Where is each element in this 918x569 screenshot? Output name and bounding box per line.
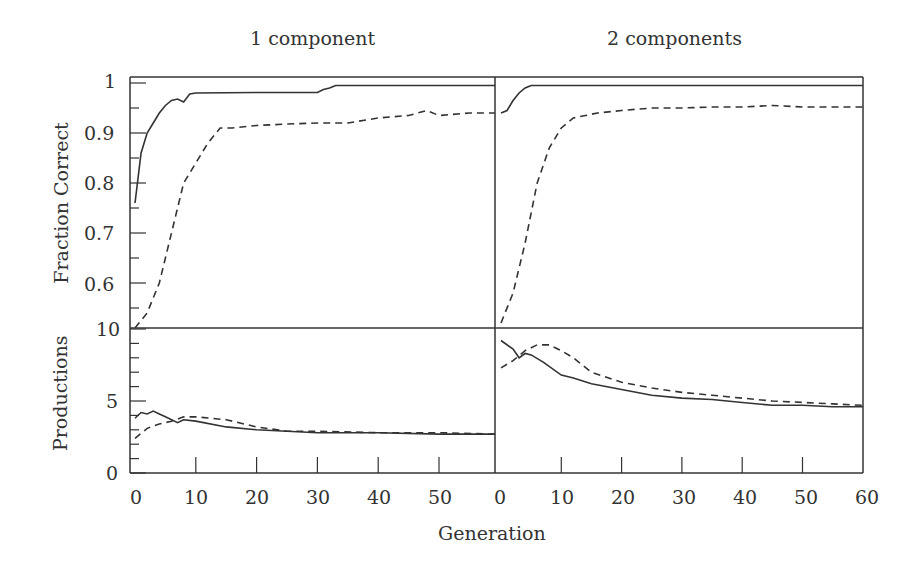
top-left-dashed-series-line xyxy=(135,111,495,329)
top-right-dashed-series-line xyxy=(501,106,863,324)
top-left-solid-series-line xyxy=(135,86,495,204)
bottom-right-solid-series-line xyxy=(501,341,863,407)
chart-canvas xyxy=(0,0,918,569)
bottom-right-dashed-series-line xyxy=(501,345,863,405)
top-right-solid-series-line xyxy=(501,86,863,114)
